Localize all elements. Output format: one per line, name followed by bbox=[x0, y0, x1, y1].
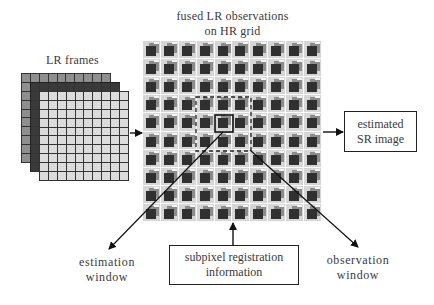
estimation-window-solid-box bbox=[215, 115, 233, 132]
connectors bbox=[0, 0, 434, 305]
arrow-observation-window bbox=[250, 150, 358, 247]
arrow-estimation-window bbox=[109, 132, 223, 249]
observation-window-dashed-box bbox=[196, 97, 251, 151]
